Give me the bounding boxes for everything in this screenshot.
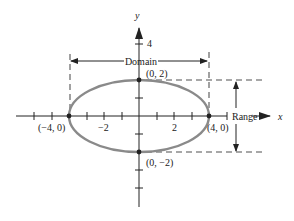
range-label: Range	[232, 111, 258, 122]
point-left-label: (−4, 0)	[38, 122, 65, 134]
point-bottom-label: (0, −2)	[146, 157, 173, 169]
x-axis-label: x	[277, 111, 283, 122]
point-top-label: (0, 2)	[146, 68, 168, 80]
y-axis	[135, 28, 143, 207]
x-tick-neg2: −2	[98, 122, 109, 133]
x-tick-2: 2	[172, 122, 177, 133]
y-tick-4: 4	[147, 38, 152, 49]
domain-label: Domain	[125, 56, 157, 67]
y-axis-label: y	[134, 10, 140, 21]
ellipse-diagram: Domain Range x y 4 −2 2 (0, 2) (0, −2) (…	[0, 0, 294, 221]
point-right-label: (4, 0)	[207, 122, 229, 134]
